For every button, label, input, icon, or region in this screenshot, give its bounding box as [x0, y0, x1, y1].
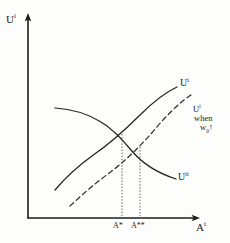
curve-u-prime-shifted — [70, 95, 191, 206]
y-axis-group — [25, 13, 32, 218]
tick-label-a-star: A* — [113, 222, 123, 230]
curve-label-u-prime-superscript: i — [187, 76, 189, 83]
y-axis-label-base: U — [6, 13, 14, 25]
x-axis-label: Ai — [196, 222, 206, 234]
curve-label-u-prime: Ui — [180, 78, 189, 89]
curve-u-prime — [55, 87, 177, 190]
shift-label-superscript: i — [199, 103, 200, 109]
y-axis-label: Ui — [6, 14, 16, 26]
economics-diagram-figure: Ui Ai Ui Uii Ui when w0↑ A* A** — [0, 0, 230, 243]
curve-label-u-double-prime: Uii — [178, 172, 189, 183]
x-axis-label-base: A — [196, 221, 204, 233]
shift-label-line-three: w0↑ — [193, 123, 213, 132]
up-arrow-icon: ↑ — [209, 122, 213, 132]
curve-label-u-prime-shifted: Ui when w0↑ — [193, 105, 213, 132]
y-axis-label-superscript: i — [14, 12, 16, 19]
curve-label-u-double-prime-superscript: ii — [185, 170, 188, 177]
x-axis-label-superscript: i — [204, 220, 206, 227]
tick-label-a-star-star: A** — [131, 222, 145, 230]
